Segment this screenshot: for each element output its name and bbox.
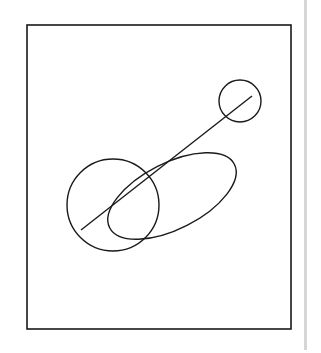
small-circle xyxy=(219,80,261,122)
frame-rectangle xyxy=(27,25,291,329)
tilted-ellipse xyxy=(95,135,250,257)
diagram-canvas xyxy=(0,0,321,353)
side-strip xyxy=(304,0,307,350)
